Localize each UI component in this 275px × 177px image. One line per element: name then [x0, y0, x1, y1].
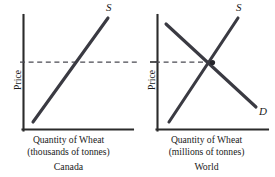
canada-x-axis-label-line1: Quantity of Wheat [0, 134, 137, 146]
world-y-axis-label: Price [147, 70, 157, 90]
canada-supply-label: S [106, 2, 112, 13]
world-demand-label: D [259, 106, 267, 117]
supply-demand-figure: S Price Quantity of Wheat (thousands of … [0, 0, 275, 177]
world-x-axis-label-line2: (millions of tonnes) [138, 146, 275, 158]
world-supply-curve [169, 18, 238, 122]
world-x-axis-label-line1: Quantity of Wheat [138, 134, 275, 146]
canada-plot-area [0, 0, 137, 137]
canada-x-axis-label-line2: (thousands of tonnes) [0, 146, 137, 158]
world-supply-label: S [236, 2, 242, 13]
panel-canada: S Price Quantity of Wheat (thousands of … [0, 0, 137, 177]
world-region-caption: World [138, 161, 275, 172]
world-plot-area [138, 0, 275, 137]
canada-region-caption: Canada [0, 161, 137, 172]
panel-world: S D Price Quantity of Wheat (millions of… [138, 0, 275, 177]
canada-y-axis-label: Price [13, 70, 23, 90]
world-equilibrium-dot [210, 60, 215, 65]
canada-supply-curve [33, 18, 108, 122]
world-demand-curve [166, 24, 256, 107]
